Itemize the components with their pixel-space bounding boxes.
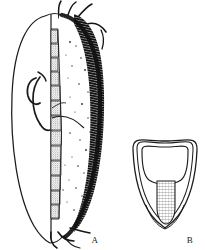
figure-b: B bbox=[133, 140, 197, 245]
figure-label-b: B bbox=[187, 235, 193, 245]
figure-label-a: A bbox=[92, 235, 99, 245]
figure-canvas: A B bbox=[0, 0, 205, 250]
seta-icon bbox=[51, 232, 57, 248]
hatched-column bbox=[157, 181, 175, 224]
seta-icon bbox=[78, 4, 92, 17]
seta-icon bbox=[68, 2, 76, 15]
inner-chamber-outline bbox=[142, 146, 188, 184]
seta-icon bbox=[101, 30, 103, 49]
internal-hook bbox=[27, 72, 50, 130]
illustration-plate: A B bbox=[0, 0, 205, 250]
figure-a: A bbox=[12, 1, 115, 248]
